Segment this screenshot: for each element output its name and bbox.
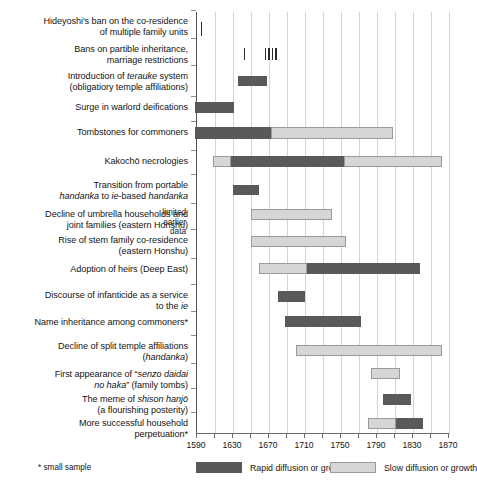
event-marker (265, 48, 267, 60)
row-spine-tick (191, 10, 196, 11)
row-label: Hideyoshi's ban on the co-residenceof mu… (4, 16, 188, 37)
row-label-line: The meme of shison hanjō (4, 394, 188, 405)
row-label-line: Introduction of terauke system (4, 71, 188, 82)
row-label-line: Surge in warlord deifications (4, 102, 188, 113)
row-label-line: Tombstones for commoners (4, 127, 188, 138)
bar-segment-slow (271, 127, 393, 139)
row-label: Name inheritance among commoners* (4, 317, 188, 328)
axis-tick (376, 434, 377, 438)
row-label: Tombstones for commoners (4, 127, 188, 138)
annotation-line: data (140, 227, 186, 237)
row-spine-tick (191, 96, 196, 97)
bar-segment-rapid (278, 291, 305, 302)
annotation-limited-earlier-data: limitedearlierdata (140, 208, 186, 237)
gridline (449, 12, 450, 434)
row-label-line: (handanka) (4, 352, 188, 363)
gridline (413, 12, 414, 434)
bar-segment-slow (213, 156, 231, 167)
plot-area (196, 12, 449, 434)
gridline (431, 12, 432, 434)
row-label-line: handanka to ie-based handanka (4, 191, 188, 202)
row-spine-tick (191, 363, 196, 364)
row-spine-tick (191, 335, 196, 336)
bar-segment-slow (368, 418, 396, 429)
row-label-line: perpetuation* (4, 429, 188, 440)
row-spine-tick (191, 229, 196, 230)
axis-tick-label: 1790 (366, 440, 385, 450)
row-label: Bans on partible inheritance,marriage re… (4, 44, 188, 65)
row-spine-tick (191, 388, 196, 389)
axis-tick-label: 1750 (330, 440, 349, 450)
row-label: Surge in warlord deifications (4, 102, 188, 113)
row-spine-tick (191, 311, 196, 312)
row-label-line: Bans on partible inheritance, (4, 44, 188, 55)
bar-segment-rapid (238, 76, 268, 86)
axis-tick (412, 434, 413, 438)
bar-segment-slow (371, 368, 401, 379)
legend-swatch-rapid (196, 462, 242, 473)
row-label-line: Adoption of heirs (Deep East) (4, 264, 188, 275)
row-label-line: (eastern Honshu) (4, 246, 188, 257)
axis-tick-label: 1590 (186, 440, 205, 450)
row-label: More successful householdperpetuation* (4, 418, 188, 439)
axis-tick (286, 434, 287, 438)
gridline (197, 12, 198, 434)
row-label: The meme of shison hanjō(a flourishing p… (4, 394, 188, 415)
legend-swatch-slow (330, 462, 376, 473)
row-label-line: of multiple family units (4, 27, 188, 38)
row-spine-tick (191, 284, 196, 285)
event-marker (244, 48, 246, 60)
row-label: Kakochō necrologies (4, 156, 188, 167)
bar-segment-slow (251, 209, 332, 220)
axis-tick (394, 434, 395, 438)
gridline (269, 12, 270, 434)
row-label: Decline of split temple affiliations(han… (4, 341, 188, 362)
event-marker (201, 22, 203, 36)
gridlines (197, 12, 449, 434)
bar-segment-slow (251, 236, 346, 247)
axis-tick (232, 434, 233, 438)
bar-segment-rapid (233, 185, 259, 195)
axis-tick (196, 434, 197, 438)
row-label-line: Transition from portable (4, 180, 188, 191)
row-label-line: Discourse of infanticide as a service (4, 290, 188, 301)
gridline (323, 12, 324, 434)
axis-tick (448, 434, 449, 438)
bar-segment-rapid (195, 102, 234, 113)
bar-segment-slow (296, 345, 442, 356)
bar-segment-slow (259, 263, 307, 274)
gridline (305, 12, 306, 434)
axis-tick-label: 1630 (222, 440, 241, 450)
row-spine-tick (191, 38, 196, 39)
row-label-line: More successful household (4, 418, 188, 429)
row-label-line: First appearance of “senzo daidai (4, 369, 188, 380)
bar-segment-rapid (396, 418, 423, 429)
annotation-line: limited (140, 208, 186, 218)
row-label-line: Kakochō necrologies (4, 156, 188, 167)
bar-segment-rapid (231, 156, 344, 167)
axis-tick (214, 434, 215, 438)
gridline (341, 12, 342, 434)
bar-segment-rapid (307, 263, 420, 274)
gridline (215, 12, 216, 434)
axis-tick (304, 434, 305, 438)
row-spine-tick (191, 121, 196, 122)
bar-segment-rapid (195, 127, 271, 139)
event-marker (275, 48, 277, 60)
row-label-line: Name inheritance among commoners* (4, 317, 188, 328)
axis-tick-label: 1710 (294, 440, 313, 450)
annotation-line: earlier (140, 218, 186, 228)
row-label: Adoption of heirs (Deep East) (4, 264, 188, 275)
row-label-line: Decline of split temple affiliations (4, 341, 188, 352)
row-label: Transition from portablehandanka to ie-b… (4, 180, 188, 201)
axis-tick (340, 434, 341, 438)
axis-tick (358, 434, 359, 438)
gridline (233, 12, 234, 434)
axis-tick-label: 1670 (258, 440, 277, 450)
gridline (359, 12, 360, 434)
chart-legend: Rapid diffusion or growthSlow diffusion … (0, 462, 459, 482)
row-label-line: (a flourishing posterity) (4, 405, 188, 416)
event-marker (268, 48, 270, 60)
row-label: Rise of stem family co-residence(eastern… (4, 235, 188, 256)
